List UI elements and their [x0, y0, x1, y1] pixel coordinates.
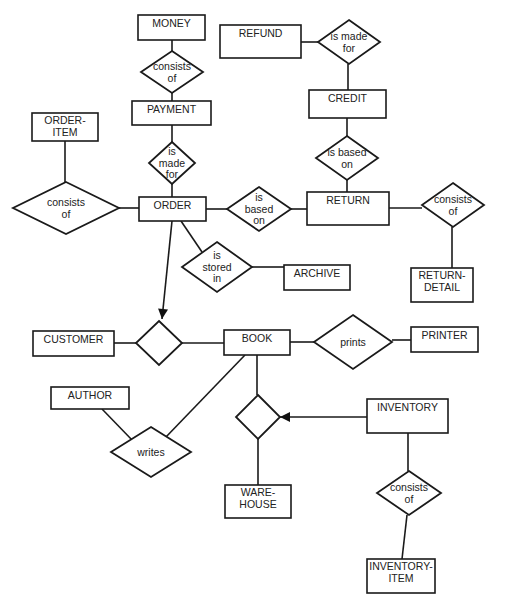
entity-label: INVENTORY- [369, 560, 433, 572]
diamond-shape [136, 321, 182, 365]
relationship-label: stored [202, 261, 231, 273]
relationship-label: in [213, 272, 221, 284]
edge-author-to-author-writes [102, 409, 133, 441]
relationship-label: made [159, 157, 185, 169]
entity-label: HOUSE [239, 498, 276, 510]
entity-label: RETURN- [418, 269, 466, 281]
relationship-payment-is-made-for: ismadefor [149, 142, 195, 184]
relationship-label: consists [47, 196, 85, 208]
entity-book: BOOK [224, 330, 290, 355]
entity-inventory: INVENTORY [367, 399, 448, 433]
relationship-credit-is-based-on: is basedon [316, 136, 378, 180]
relationship-label: based [245, 203, 274, 215]
relationship-label: is based [327, 146, 366, 158]
relationship-label: consists [434, 193, 472, 205]
entity-label: REFUND [239, 27, 283, 39]
relationship-label: of [449, 205, 458, 217]
entity-label: RETURN [326, 194, 370, 206]
entity-label: ITEM [52, 126, 77, 138]
diamond-shape [236, 395, 280, 439]
entity-inventory-item: INVENTORY-ITEM [367, 559, 435, 593]
relationship-label: for [343, 42, 356, 54]
entity-label: CUSTOMER [44, 333, 104, 345]
edge-book-to-author-writes [165, 355, 245, 438]
relationship-book-warehouse-rel [236, 395, 280, 439]
relationship-label: on [253, 214, 265, 226]
relationship-label: of [168, 72, 177, 84]
entity-archive: ARCHIVE [284, 265, 350, 290]
entity-label: WARE- [241, 486, 276, 498]
edge-inventory-to-book-warehouse-rel [280, 412, 367, 422]
relationship-customer-book-rel [136, 321, 182, 365]
entity-label: PAYMENT [147, 103, 197, 115]
relationship-return-consists-of: consistsof [422, 183, 484, 227]
entity-return: RETURN [307, 192, 389, 225]
entity-order: ORDER [139, 197, 206, 221]
entity-label: ARCHIVE [294, 267, 341, 279]
entity-label: PRINTER [421, 329, 468, 341]
entity-return-detail: RETURN-DETAIL [411, 268, 473, 302]
entity-order-item: ORDER-ITEM [32, 113, 98, 141]
entity-customer: CUSTOMER [33, 331, 114, 356]
relationship-label: of [62, 208, 71, 220]
entity-label: DETAIL [424, 281, 460, 293]
er-diagram: consistsofis madeforismadeforis basedonc… [0, 0, 507, 611]
relationship-label: is [168, 145, 176, 157]
edge-inventory-consists-of-to-inventory-item [402, 515, 407, 559]
entity-label: CREDIT [328, 92, 368, 104]
entity-label: INVENTORY [377, 401, 438, 413]
entity-money: MONEY [138, 15, 205, 40]
relationship-label: for [166, 168, 179, 180]
entity-author: AUTHOR [51, 387, 129, 409]
entity-label: ITEM [388, 572, 413, 584]
relationship-label: is [213, 249, 221, 261]
entity-label: ORDER [154, 199, 192, 211]
entity-credit: CREDIT [309, 90, 386, 118]
relationship-book-prints: prints [314, 315, 392, 369]
relationship-label: consists [153, 60, 191, 72]
entity-payment: PAYMENT [132, 101, 211, 125]
entity-label: BOOK [242, 332, 272, 344]
relationship-label: is [255, 191, 263, 203]
relationship-order-consists-of: consistsof [13, 182, 119, 234]
entity-refund: REFUND [220, 25, 301, 58]
arrowhead-icon [280, 412, 290, 422]
relationship-author-writes: writes [111, 427, 191, 477]
entity-printer: PRINTER [411, 327, 478, 352]
entity-label: MONEY [152, 17, 191, 29]
arrowhead-icon [158, 309, 168, 319]
relationship-refund-is-made-for: is madefor [318, 20, 380, 64]
entity-label: AUTHOR [68, 389, 113, 401]
edge-order-to-order-is-stored-in [181, 221, 202, 252]
edge-order-to-customer-book-rel [158, 221, 172, 319]
entity-label: ORDER- [44, 114, 86, 126]
entity-warehouse: WARE-HOUSE [225, 485, 291, 518]
relationship-order-is-based-on: isbasedon [227, 187, 291, 231]
relationship-label: is made [331, 30, 368, 42]
relationship-order-is-stored-in: isstoredin [182, 242, 252, 292]
relationship-money-consists-of: consistsof [141, 51, 203, 93]
relationship-label: on [341, 158, 353, 170]
relationship-inventory-consists-of: consistsof [377, 471, 441, 515]
relationship-label: consists [390, 481, 428, 493]
relationship-label: of [405, 493, 414, 505]
relationship-label: prints [340, 336, 366, 348]
relationship-label: writes [136, 446, 164, 458]
